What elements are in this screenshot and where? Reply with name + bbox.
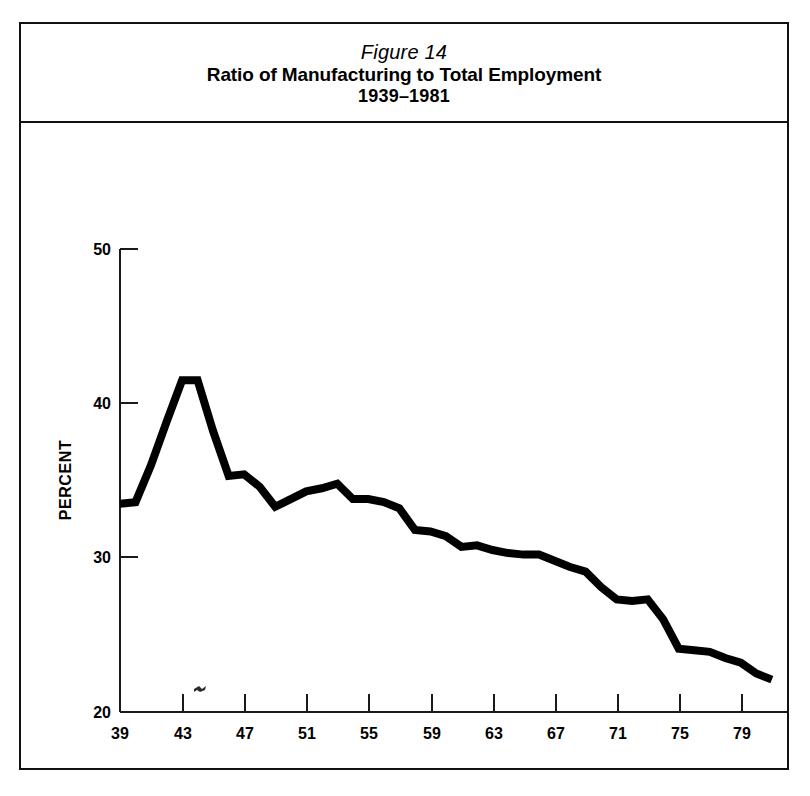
x-tick-label-47: 47	[236, 725, 254, 742]
y-axis-ticks	[120, 249, 138, 712]
x-tick-label-63: 63	[485, 725, 503, 742]
y-tick-label-50: 50	[93, 241, 111, 258]
figure-frame: Figure 14 Ratio of Manufacturing to Tota…	[19, 22, 789, 770]
y-tick-label-20: 20	[93, 704, 111, 721]
y-tick-label-40: 40	[93, 395, 111, 412]
x-tick-label-55: 55	[360, 725, 378, 742]
title-block: Figure 14 Ratio of Manufacturing to Tota…	[21, 24, 787, 123]
plot-area: 50 40 30 20 PERCENT	[21, 123, 787, 770]
x-tick-label-79: 79	[733, 725, 751, 742]
y-tick-label-30: 30	[93, 549, 111, 566]
line-chart: 50 40 30 20 PERCENT	[21, 123, 787, 768]
x-tick-label-75: 75	[671, 725, 689, 742]
x-tick-label-71: 71	[609, 725, 627, 742]
x-axis-ticks	[120, 694, 742, 712]
ink-speck	[194, 686, 206, 692]
x-tick-label-59: 59	[423, 725, 441, 742]
x-tick-label-43: 43	[174, 725, 192, 742]
x-axis-tick-labels: 39 43 47 51 55 59 63 67 71 75 79	[111, 725, 751, 742]
page-title: Ratio of Manufacturing to Total Employme…	[207, 64, 601, 86]
y-axis-tick-labels: 50 40 30 20	[93, 241, 111, 721]
y-axis-title: PERCENT	[57, 440, 74, 521]
figure-period: 1939–1981	[358, 86, 450, 108]
series-line-ratio	[120, 380, 772, 679]
x-tick-label-67: 67	[547, 725, 565, 742]
x-tick-label-39: 39	[111, 725, 129, 742]
x-tick-label-51: 51	[298, 725, 316, 742]
x-axis-title: YEAR	[418, 766, 465, 768]
figure-number: Figure 14	[361, 41, 447, 63]
